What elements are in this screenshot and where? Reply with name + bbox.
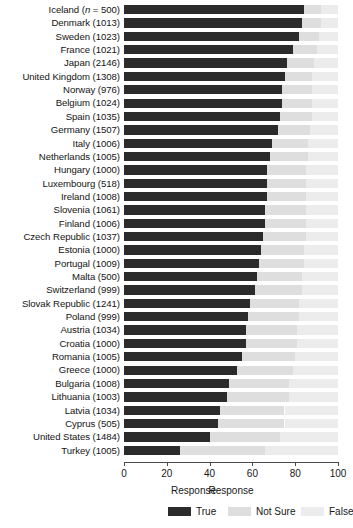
bar-track [124,366,338,375]
chart-row: Cyprus (505) [0,417,347,430]
row-label: Austria (1034) [0,323,120,336]
bar-segment-true [124,285,255,294]
bar-track [124,432,338,441]
bar-track [124,339,338,348]
x-axis-line [124,462,338,463]
x-tick-label: 100 [323,468,353,479]
chart-row: Finland (1006) [0,217,347,230]
row-label: Lithuania (1003) [0,390,120,403]
bar-segment-true [124,406,220,415]
bar-segment-not-sure [278,125,310,134]
x-tick [210,462,211,466]
bar-segment-true [124,5,304,14]
bar-track [124,245,338,254]
row-label: Ireland (1008) [0,190,120,203]
bar-segment-false [306,219,338,228]
legend: TrueNot SureFalse [168,504,343,520]
bar-segment-false [299,312,338,321]
bar-segment-false [297,339,338,348]
bar-track [124,379,338,388]
bar-segment-not-sure [218,419,284,428]
bar-segment-true [124,72,285,81]
bar-segment-not-sure [246,339,297,348]
bar-segment-true [124,85,282,94]
bar-segment-false [310,125,338,134]
row-label: Iceland (n = 500) [0,3,120,16]
bar-track [124,99,338,108]
legend-item-not-sure[interactable]: Not Sure [228,504,295,518]
chart-row: Ireland (1008) [0,190,347,203]
bar-segment-true [124,379,229,388]
bar-segment-false [280,432,338,441]
bar-segment-false [317,45,338,54]
bar-track [124,419,338,428]
bar-segment-not-sure [248,312,299,321]
bar-segment-true [124,112,280,121]
bar-segment-true [124,205,265,214]
bar-segment-false [312,72,338,81]
bar-segment-false [312,85,338,94]
bar-segment-not-sure [227,392,289,401]
chart-row: Norway (976) [0,83,347,96]
bar-segment-not-sure [267,192,306,201]
bar-segment-not-sure [302,18,321,27]
row-label: Estonia (1000) [0,243,120,256]
row-label: Germany (1507) [0,123,120,136]
x-tick-label: 0 [109,468,139,479]
bar-segment-not-sure [250,299,299,308]
bar-segment-true [124,446,180,455]
chart-row: Austria (1034) [0,323,347,336]
bar-track [124,219,338,228]
plot-area: Iceland (n = 500)Denmark (1013)Sweden (1… [0,0,347,466]
row-label: Poland (999) [0,310,120,323]
bar-track [124,139,338,148]
legend-item-false[interactable]: False [301,504,353,518]
row-label: Switzerland (999) [0,283,120,296]
bar-track [124,32,338,41]
chart-row: Slovak Republic (1241) [0,297,347,310]
bar-segment-not-sure [265,219,306,228]
chart-row: Italy (1006) [0,137,347,150]
chart-row: Latvia (1034) [0,404,347,417]
bar-segment-false [306,205,338,214]
chart-row: Belgium (1024) [0,96,347,109]
bar-segment-not-sure [287,58,315,67]
row-label: United Kingdom (1308) [0,70,120,83]
bar-segment-true [124,299,250,308]
bar-track [124,165,338,174]
row-label: Romania (1005) [0,350,120,363]
bar-track [124,192,338,201]
bar-track [124,205,338,214]
row-label: France (1021) [0,43,120,56]
bar-segment-false [302,272,338,281]
bar-track [124,232,338,241]
row-label: Netherlands (1005) [0,150,120,163]
bar-segment-true [124,45,293,54]
legend-title: Response [171,485,216,496]
bar-segment-true [124,259,259,268]
chart-row: Japan (2146) [0,56,347,69]
bar-track [124,299,338,308]
bar-segment-true [124,139,272,148]
row-label: Malta (500) [0,270,120,283]
row-label: Latvia (1034) [0,404,120,417]
bar-segment-not-sure [285,72,313,81]
bar-segment-false [304,259,338,268]
bar-segment-true [124,419,218,428]
bar-segment-false [295,352,338,361]
bar-segment-false [321,18,338,27]
bar-segment-false [314,58,338,67]
bar-track [124,85,338,94]
bar-segment-true [124,152,270,161]
bar-track [124,285,338,294]
bar-segment-true [124,392,227,401]
bar-segment-false [321,5,338,14]
legend-label: Not Sure [256,506,295,517]
legend-item-true[interactable]: True [168,504,216,518]
bar-track [124,352,338,361]
bar-track [124,125,338,134]
chart-row: France (1021) [0,43,347,56]
bar-segment-not-sure [257,272,302,281]
row-label: Czech Republic (1037) [0,230,120,243]
